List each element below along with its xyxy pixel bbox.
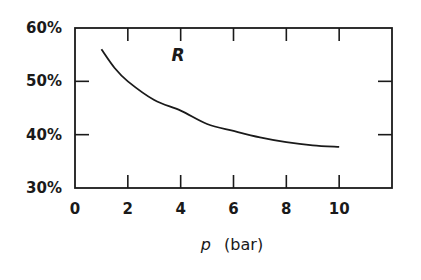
y-tick-label: 50% xyxy=(26,72,62,90)
x-axis-unit: (bar) xyxy=(224,235,263,254)
x-tick-labels: 0246810 xyxy=(70,200,350,218)
plot-border xyxy=(75,28,392,188)
x-tick-label: 2 xyxy=(123,200,133,218)
series-annotation: R xyxy=(171,45,184,65)
x-tick-label: 4 xyxy=(175,200,185,218)
x-tick-label: 8 xyxy=(281,200,291,218)
data-series xyxy=(101,49,339,147)
axis-ticks xyxy=(75,28,392,188)
x-tick-label: 10 xyxy=(329,200,350,218)
x-axis-title: p (bar) xyxy=(200,235,263,254)
annotations: R xyxy=(171,45,184,65)
x-tick-label: 0 xyxy=(70,200,80,218)
y-tick-label: 40% xyxy=(26,126,62,144)
x-axis-variable: p xyxy=(200,235,211,254)
x-tick-label: 6 xyxy=(228,200,238,218)
series-line-R xyxy=(101,49,339,147)
y-tick-label: 30% xyxy=(26,179,62,197)
plot-frame xyxy=(75,28,392,188)
chart: 30%40%50%60% 0246810 R p (bar) xyxy=(0,0,421,280)
y-tick-labels: 30%40%50%60% xyxy=(26,19,62,197)
y-tick-label: 60% xyxy=(26,19,62,37)
